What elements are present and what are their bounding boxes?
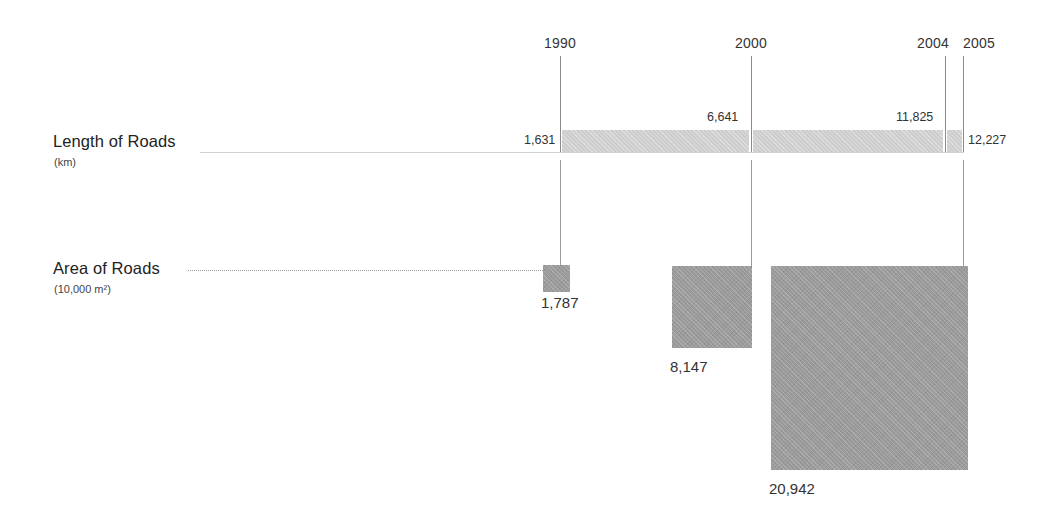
area-square-2000 [672,266,752,348]
bar-segment-2000-2004 [753,130,943,152]
length-value-2000: 6,641 [707,110,738,124]
length-baseline-under-bar [560,152,964,153]
length-value-1990: 1,631 [524,133,555,147]
row-title-area-of-roads: Area of Roads [53,259,160,278]
area-value-2005: 20,942 [769,480,815,497]
year-label-2000: 2000 [735,35,767,51]
area-dotted-leader [188,270,543,271]
row-title-length-of-roads: Length of Roads [53,132,176,151]
length-value-2004: 11,825 [896,110,933,124]
guide-line-2005-bottom [963,160,964,266]
length-value-2005: 12,227 [968,133,1006,147]
area-value-1990: 1,787 [541,294,579,311]
guide-line-2004-top [945,56,946,152]
row-unit-length-of-roads: (km) [54,156,76,168]
guide-line-1990-bottom [560,160,561,266]
guide-line-2000-bottom [751,160,752,266]
year-label-2004: 2004 [917,35,949,51]
area-square-1990 [543,265,570,292]
bar-segment-2004-2005 [947,130,962,152]
bar-segment-1990-2000 [562,130,749,152]
year-label-2005: 2005 [963,35,995,51]
guide-line-2000-top [751,56,752,152]
length-baseline-leader [200,152,560,153]
row-unit-area-of-roads: (10,000 m²) [54,283,111,295]
guide-line-2005-top [963,56,964,152]
guide-line-1990-top [560,56,561,152]
area-value-2000: 8,147 [670,358,708,375]
chart-canvas: 1990 2000 2004 2005 Length of Roads (km)… [0,0,1060,519]
area-square-2005 [771,266,968,470]
year-label-1990: 1990 [544,35,576,51]
